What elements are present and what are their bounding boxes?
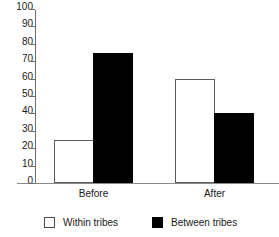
y-tick-mark bbox=[29, 131, 35, 132]
plot-area: 0 10 20 30 40 50 60 70 bbox=[0, 0, 279, 200]
y-tick-mark bbox=[29, 61, 35, 62]
y-tick-label: 50 bbox=[22, 89, 33, 99]
legend-label: Within tribes bbox=[63, 217, 118, 228]
bar-before-between-tribes[interactable] bbox=[93, 53, 133, 184]
y-tick-label: 80 bbox=[22, 37, 33, 47]
y-tick-label: 10 bbox=[22, 159, 33, 169]
y-tick-label: 20 bbox=[22, 141, 33, 151]
bar-after-within-tribes[interactable] bbox=[175, 79, 215, 183]
bar-chart: 0 10 20 30 40 50 60 70 bbox=[0, 0, 279, 237]
legend-item-within-tribes[interactable]: Within tribes bbox=[44, 212, 118, 232]
y-tick-label: 30 bbox=[22, 124, 33, 134]
y-tick-label: 0 bbox=[27, 176, 33, 186]
y-tick-label: 70 bbox=[22, 54, 33, 64]
y-tick-label: 60 bbox=[22, 72, 33, 82]
y-tick-mark bbox=[29, 9, 35, 10]
y-axis-line bbox=[35, 10, 36, 184]
y-tick-mark bbox=[29, 148, 35, 149]
bar-before-within-tribes[interactable] bbox=[54, 140, 94, 184]
legend-label: Between tribes bbox=[171, 217, 237, 228]
x-axis-baseline bbox=[17, 183, 279, 184]
y-tick-label: 40 bbox=[22, 106, 33, 116]
y-tick-mark bbox=[29, 96, 35, 97]
y-tick-mark bbox=[29, 183, 35, 184]
y-tick-label: 100 bbox=[16, 2, 33, 12]
chart-legend: Within tribes Between tribes bbox=[0, 212, 279, 234]
black-square-swatch-icon bbox=[152, 217, 163, 228]
bar-after-between-tribes[interactable] bbox=[214, 113, 254, 183]
y-tick-mark bbox=[29, 79, 35, 80]
x-axis-label-after: After bbox=[175, 188, 254, 199]
y-tick-mark bbox=[29, 113, 35, 114]
legend-item-between-tribes[interactable]: Between tribes bbox=[152, 212, 237, 232]
y-tick-mark bbox=[29, 166, 35, 167]
y-tick-mark bbox=[29, 44, 35, 45]
y-tick-mark bbox=[29, 26, 35, 27]
x-axis-label-before: Before bbox=[54, 188, 133, 199]
white-square-swatch-icon bbox=[44, 217, 55, 228]
y-tick-label: 90 bbox=[22, 19, 33, 29]
